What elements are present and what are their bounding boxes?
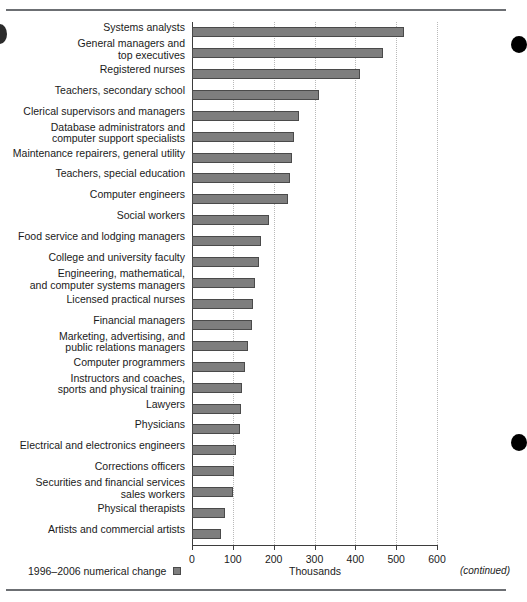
legend-swatch — [173, 567, 181, 575]
bar — [192, 362, 245, 372]
bar — [192, 27, 404, 37]
legend: 1996–2006 numerical change — [28, 565, 181, 577]
category-label: Computer programmers — [5, 357, 185, 369]
category-label: Financial managers — [5, 315, 185, 327]
category-label: Social workers — [5, 210, 185, 222]
bar — [192, 111, 299, 121]
x-tick-label-600: 600 — [428, 553, 446, 565]
bar-row: Financial managers — [192, 315, 437, 336]
category-label: Artists and commercial artists — [5, 524, 185, 536]
x-tick-200 — [274, 545, 275, 550]
gridline-600 — [437, 22, 438, 545]
bar — [192, 132, 294, 142]
bar — [192, 299, 253, 309]
category-label: Lawyers — [5, 399, 185, 411]
bar-row: General managers andtop executives — [192, 43, 437, 64]
bar-row: Artists and commercial artists — [192, 524, 437, 545]
bar — [192, 173, 290, 183]
x-tick-label-100: 100 — [224, 553, 242, 565]
plot-area: 0100200300400500600 Systems analystsGene… — [192, 22, 437, 545]
bar — [192, 320, 252, 330]
category-label: Clerical supervisors and managers — [5, 106, 185, 118]
bar-row: Registered nurses — [192, 64, 437, 85]
bar-row: Social workers — [192, 210, 437, 231]
category-label: Securities and financial servicessales w… — [5, 477, 185, 500]
continued-note: (continued) — [460, 565, 510, 576]
bar — [192, 257, 259, 267]
bar — [192, 278, 255, 288]
bar — [192, 404, 241, 414]
x-tick-label-400: 400 — [347, 553, 365, 565]
bar — [192, 341, 248, 351]
x-tick-100 — [233, 545, 234, 550]
bar-row: Systems analysts — [192, 22, 437, 43]
category-label: College and university faculty — [5, 252, 185, 264]
bar — [192, 383, 242, 393]
bar-row: Corrections officers — [192, 461, 437, 482]
category-label: Licensed practical nurses — [5, 294, 185, 306]
x-tick-0 — [192, 545, 193, 550]
category-label: General managers andtop executives — [5, 38, 185, 61]
bar-row: Securities and financial servicessales w… — [192, 482, 437, 503]
bar — [192, 236, 261, 246]
bar-row: Clerical supervisors and managers — [192, 106, 437, 127]
category-label: Marketing, advertising, andpublic relati… — [5, 331, 185, 354]
x-tick-label-0: 0 — [189, 553, 195, 565]
category-label: Teachers, secondary school — [5, 85, 185, 97]
bar — [192, 48, 383, 58]
bar-row: Engineering, mathematical,and computer s… — [192, 273, 437, 294]
category-label: Database administrators andcomputer supp… — [5, 122, 185, 145]
bar-row: Maintenance repairers, general utility — [192, 148, 437, 169]
bar — [192, 69, 360, 79]
bar — [192, 487, 233, 497]
bar — [192, 194, 288, 204]
bar-row: College and university faculty — [192, 252, 437, 273]
x-tick-label-500: 500 — [387, 553, 405, 565]
x-axis-title: Thousands — [192, 565, 438, 577]
category-label: Physicians — [5, 419, 185, 431]
bar-row: Food service and lodging managers — [192, 231, 437, 252]
bar-row: Physicians — [192, 419, 437, 440]
category-label: Computer engineers — [5, 189, 185, 201]
category-label: Maintenance repairers, general utility — [5, 148, 185, 160]
bar-row: Electrical and electronics engineers — [192, 440, 437, 461]
bar — [192, 529, 221, 539]
bar-row: Database administrators andcomputer supp… — [192, 127, 437, 148]
category-label: Corrections officers — [5, 461, 185, 473]
bar — [192, 508, 225, 518]
category-label: Food service and lodging managers — [5, 231, 185, 243]
legend-label: 1996–2006 numerical change — [28, 565, 166, 577]
bar-row: Teachers, secondary school — [192, 85, 437, 106]
bar-row: Computer engineers — [192, 189, 437, 210]
category-label: Registered nurses — [5, 64, 185, 76]
category-label: Instructors and coaches,sports and physi… — [5, 373, 185, 396]
bar — [192, 466, 234, 476]
bar-row: Licensed practical nurses — [192, 294, 437, 315]
x-tick-label-300: 300 — [306, 553, 324, 565]
category-label: Physical therapists — [5, 503, 185, 515]
bar-row: Marketing, advertising, andpublic relati… — [192, 336, 437, 357]
bar-row: Physical therapists — [192, 503, 437, 524]
bar-row: Instructors and coaches,sports and physi… — [192, 378, 437, 399]
x-tick-600 — [437, 545, 438, 550]
bar-row: Teachers, special education — [192, 168, 437, 189]
category-label: Electrical and electronics engineers — [5, 440, 185, 452]
bar-row: Computer programmers — [192, 357, 437, 378]
bar-rows: Systems analystsGeneral managers andtop … — [192, 22, 437, 545]
category-label: Teachers, special education — [5, 168, 185, 180]
x-tick-300 — [315, 545, 316, 550]
bar — [192, 153, 292, 163]
category-label: Systems analysts — [5, 22, 185, 34]
bar — [192, 424, 240, 434]
bar — [192, 215, 269, 225]
bar — [192, 445, 236, 455]
x-tick-500 — [396, 545, 397, 550]
bar-row: Lawyers — [192, 399, 437, 420]
bar — [192, 90, 319, 100]
x-tick-label-200: 200 — [265, 553, 283, 565]
x-tick-400 — [355, 545, 356, 550]
category-label: Engineering, mathematical,and computer s… — [5, 268, 185, 291]
